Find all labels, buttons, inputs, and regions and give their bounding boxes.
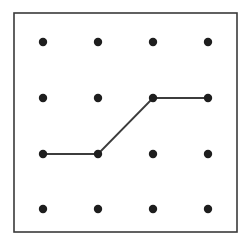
grid-dot — [94, 150, 102, 158]
grid-dot — [204, 38, 212, 46]
grid-dot — [39, 150, 47, 158]
grid-dot — [39, 38, 47, 46]
grid-dot — [204, 150, 212, 158]
grid-dot — [94, 38, 102, 46]
dot-grid-diagram — [0, 0, 243, 238]
grid-dot — [149, 94, 157, 102]
diagram-background — [0, 0, 243, 238]
grid-dot — [39, 205, 47, 213]
grid-dot — [149, 38, 157, 46]
grid-dot — [94, 205, 102, 213]
grid-dot — [94, 94, 102, 102]
grid-dot — [204, 205, 212, 213]
grid-dot — [39, 94, 47, 102]
grid-dot — [204, 94, 212, 102]
grid-dot — [149, 205, 157, 213]
grid-dot — [149, 150, 157, 158]
